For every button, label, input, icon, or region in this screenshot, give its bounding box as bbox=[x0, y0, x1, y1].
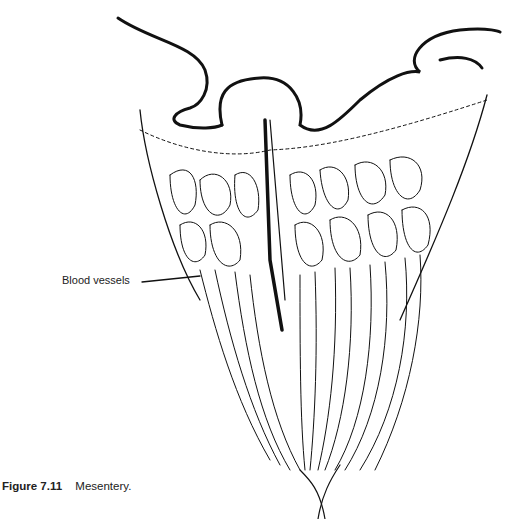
figure-mesentery: Blood vessels Figure 7.11 Mesentery. bbox=[0, 0, 527, 519]
caption-number: Figure 7.11 bbox=[2, 480, 62, 492]
mesentery-illustration bbox=[0, 0, 527, 519]
figure-caption: Figure 7.11 Mesentery. bbox=[2, 480, 131, 492]
label-blood-vessels: Blood vessels bbox=[62, 274, 130, 286]
label-leader-line bbox=[142, 276, 200, 282]
caption-text: Mesentery. bbox=[75, 480, 131, 492]
